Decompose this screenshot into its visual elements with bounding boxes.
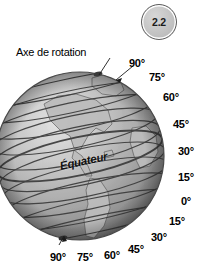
latitude-label-right-4: 30° xyxy=(178,146,194,157)
latitude-label-right-5: 15° xyxy=(178,172,194,183)
axis-of-rotation-label: Axe de rotation xyxy=(16,46,86,58)
latitude-label-right-6: 0° xyxy=(181,196,191,207)
latitude-label-bottom-1: 75° xyxy=(77,252,93,263)
latitude-label-right-8: 30° xyxy=(151,232,167,243)
latitude-label-right-2: 60° xyxy=(163,92,179,103)
latitude-label-right-9: 45° xyxy=(128,244,144,255)
latitude-label-bottom-0: 90° xyxy=(50,252,66,263)
chapter-badge: 2.2 xyxy=(141,4,177,40)
chapter-badge-number: 2.2 xyxy=(152,17,166,28)
globe-illustration xyxy=(0,0,208,277)
latitude-label-right-3: 45° xyxy=(173,119,189,130)
latitude-label-bottom-2: 60° xyxy=(104,250,120,261)
latitude-label-right-7: 15° xyxy=(169,216,185,227)
latitude-label-right-1: 75° xyxy=(149,72,165,83)
axis-leader-line xyxy=(99,58,110,75)
latitude-label-right-0: 90° xyxy=(129,58,145,69)
globe-figure: 2.2 Axe de rotation Équateur 90°75°60°45… xyxy=(0,0,208,277)
